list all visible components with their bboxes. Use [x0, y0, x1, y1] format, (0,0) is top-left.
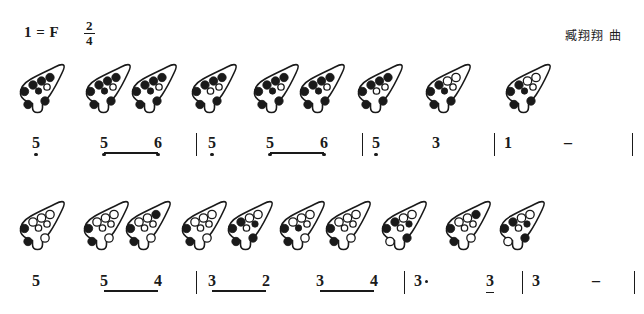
ocarina-body — [14, 58, 72, 116]
ocarina-hole-closed — [391, 218, 399, 226]
ocarina-hole-closed — [321, 97, 329, 105]
note-number: 3 — [312, 271, 328, 291]
ocarina-hole-open — [526, 210, 534, 218]
ocarina-fingering-diagram — [494, 195, 552, 253]
ocarina-hole-closed — [153, 97, 161, 105]
ocarina-fingering-diagram — [120, 195, 178, 253]
ocarina-hole-open — [254, 210, 262, 218]
note-number: 2 — [258, 271, 274, 291]
ocarina-hole-closed — [430, 100, 438, 108]
ocarina-body — [352, 58, 410, 116]
barline — [494, 133, 495, 156]
ocarina-body — [376, 195, 434, 253]
ocarina-hole-closed — [362, 100, 370, 108]
ocarina-hole-open — [150, 221, 156, 227]
ocarina-hole-closed — [101, 88, 107, 94]
note-number: 6 — [150, 133, 166, 153]
ocarina-hole-closed — [309, 81, 317, 89]
ocarina-fingering-diagram — [14, 195, 72, 253]
ocarina-hole-open — [41, 234, 49, 242]
ocarina-hole-closed — [149, 77, 157, 85]
ocarina-body — [500, 58, 558, 116]
ocarina-hole-closed — [527, 97, 535, 105]
ocarina-hole-closed — [132, 87, 140, 95]
note-number: 5 — [204, 133, 220, 153]
ocarina-hole-open — [108, 221, 114, 227]
ocarina-hole-closed — [95, 81, 103, 89]
ocarina-hole-open — [324, 84, 330, 90]
ocarina-hole-closed — [446, 224, 454, 232]
ocarina-hole-closed — [196, 100, 204, 108]
ocarina-hole-closed — [258, 100, 266, 108]
note-digit: 3 — [532, 271, 540, 291]
notation-row: 5543234333– — [0, 271, 644, 314]
ocarina-hole-closed — [249, 234, 257, 242]
note-digit: 5 — [32, 271, 40, 291]
ocarina-hole-open — [141, 225, 147, 231]
ocarina-hole-closed — [88, 237, 96, 245]
ocarina-hole-closed — [35, 88, 41, 94]
ocarina-fingering-row — [0, 195, 644, 255]
ocarina-hole-closed — [218, 73, 226, 81]
ocarina-hole-closed — [158, 73, 166, 81]
note-digit: 6 — [154, 133, 162, 153]
ocarina-hole-closed — [213, 97, 221, 105]
ocarina-hole-closed — [384, 73, 392, 81]
ocarina-hole-closed — [20, 224, 28, 232]
ocarina-hole-open — [523, 77, 531, 85]
ocarina-hole-closed — [379, 97, 387, 105]
ocarina-hole-open — [93, 218, 101, 226]
note-digit: 5 — [100, 133, 108, 153]
ocarina-hole-closed — [521, 234, 529, 242]
ocarina-hole-open — [147, 234, 155, 242]
ocarina-hole-open — [335, 218, 343, 226]
note-number: 3 — [482, 271, 498, 293]
ocarina-hole-open — [110, 210, 118, 218]
ocarina-hole-closed — [192, 87, 200, 95]
ocarina-hole-open — [373, 88, 379, 94]
ocarina-fingering-row — [0, 58, 644, 118]
ocarina-hole-closed — [304, 100, 312, 108]
ocarina-hole-closed — [20, 87, 28, 95]
key-signature: 1 = F — [24, 24, 59, 41]
ocarina-body — [440, 195, 498, 253]
ocarina-hole-open — [450, 84, 456, 90]
ocarina-fingering-diagram — [320, 195, 378, 253]
ocarina-hole-open — [110, 84, 116, 90]
ocarina-fingering-diagram — [294, 58, 352, 116]
ocarina-hole-closed — [472, 210, 480, 218]
note-digit: 5 — [266, 133, 274, 153]
ocarina-hole-closed — [406, 221, 412, 227]
ocarina-hole-closed — [152, 210, 160, 218]
ocarina-hole-open — [350, 221, 356, 227]
sheet-music-page: 1 = F 2 4 臧翔翔 曲 556556531–5543234333– — [0, 0, 644, 314]
note-digit: 5 — [32, 133, 40, 153]
ocarina-body — [222, 195, 280, 253]
note-number: 6 — [316, 133, 332, 153]
ocarina-hole-closed — [358, 87, 366, 95]
note-number: 5 — [28, 133, 44, 153]
ocarina-hole-closed — [141, 81, 149, 89]
ocarina-hole-open — [105, 234, 113, 242]
ocarina-hole-closed — [232, 237, 240, 245]
ocarina-hole-closed — [24, 100, 32, 108]
ocarina-hole-closed — [317, 77, 325, 85]
ocarina-hole-open — [386, 237, 394, 245]
ocarina-hole-closed — [201, 81, 209, 89]
barline — [196, 271, 197, 294]
ocarina-hole-closed — [435, 81, 443, 89]
ocarina-body — [126, 58, 184, 116]
ocarina-fingering-diagram — [500, 58, 558, 116]
note-number: 3 — [410, 271, 426, 291]
ocarina-hole-open — [243, 225, 249, 231]
note-number: 4 — [150, 271, 166, 291]
ocarina-hole-closed — [147, 88, 153, 94]
notation-row: 556556531– — [0, 133, 644, 177]
ocarina-hole-open — [216, 84, 222, 90]
ocarina-hole-closed — [126, 224, 134, 232]
ocarina-hole-closed — [237, 218, 245, 226]
note-number: 5 — [28, 271, 44, 291]
ocarina-body — [186, 58, 244, 116]
note-digit: 3 — [432, 133, 440, 153]
ocarina-hole-closed — [136, 100, 144, 108]
